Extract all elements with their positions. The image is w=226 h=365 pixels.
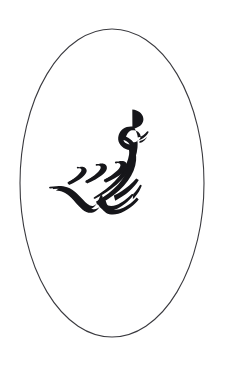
artboard: Swan Emblem Black swan brush-stroke silh… — [0, 0, 226, 365]
swan-emblem-image — [0, 0, 226, 365]
background-plate — [0, 0, 226, 365]
